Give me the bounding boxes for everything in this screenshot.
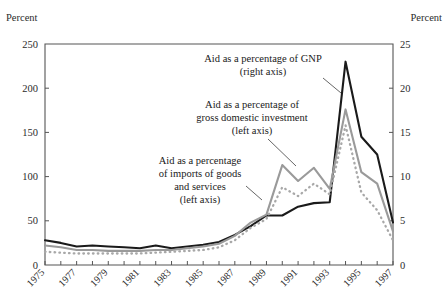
left-tick-label: 250 xyxy=(22,39,38,50)
annotation-imports-line2: of imports of goods xyxy=(159,168,242,179)
annotation-imports-line1: Aid as a percentage xyxy=(159,155,242,166)
annotation-gnp-line1: Aid as a percentage of GNP xyxy=(204,53,322,64)
left-tick-label: 150 xyxy=(22,127,38,138)
x-tick-label: 1983 xyxy=(151,267,173,289)
annotation-gdi-leader xyxy=(268,139,296,166)
x-tick-label: 1997 xyxy=(372,267,394,289)
right-tick-label: 15 xyxy=(400,127,411,138)
x-tick-label: 1977 xyxy=(56,267,78,289)
chart-container: Percent Percent 050100150200250 05101520… xyxy=(0,0,448,304)
annotation-imports: Aid as a percentage of imports of goods … xyxy=(159,155,262,206)
right-tick-label: 5 xyxy=(400,215,405,226)
annotation-gnp: Aid as a percentage of GNP (right axis) xyxy=(204,53,341,93)
annotation-gdi-line1: Aid as a percentage of xyxy=(205,99,299,110)
x-tick-label: 1993 xyxy=(309,267,331,289)
chart-plot: 050100150200250 0510152025 1975197719791… xyxy=(0,0,448,304)
x-tick-label: 1995 xyxy=(341,267,363,289)
annotation-gdi-line2: gross domestic investment xyxy=(196,112,307,123)
left-tick-label: 200 xyxy=(22,83,38,94)
annotation-imports-leader xyxy=(246,186,262,200)
annotation-imports-line4: (left axis) xyxy=(180,194,221,206)
annotation-gnp-leader xyxy=(323,78,341,93)
right-tick-label: 10 xyxy=(400,171,411,182)
right-axis-ticks: 0510152025 xyxy=(389,39,411,271)
left-tick-label: 100 xyxy=(22,171,38,182)
right-tick-label: 0 xyxy=(400,260,405,271)
right-tick-label: 20 xyxy=(400,83,411,94)
right-tick-label: 25 xyxy=(400,39,411,50)
x-tick-label: 1981 xyxy=(119,267,141,289)
annotation-gdi-line3: (left axis) xyxy=(232,125,273,137)
x-tick-label: 1991 xyxy=(278,267,300,289)
annotation-imports-line3: and services xyxy=(174,181,226,192)
right-axis-title: Percent xyxy=(411,12,443,23)
left-tick-label: 50 xyxy=(28,215,39,226)
x-tick-label: 1979 xyxy=(88,267,110,289)
x-tick-label: 1975 xyxy=(24,267,46,289)
x-tick-label: 1989 xyxy=(246,267,268,289)
x-tick-label: 1987 xyxy=(214,267,236,289)
annotation-gnp-line2: (right axis) xyxy=(240,66,287,78)
left-axis-title: Percent xyxy=(6,12,38,23)
x-tick-label: 1985 xyxy=(183,267,205,289)
